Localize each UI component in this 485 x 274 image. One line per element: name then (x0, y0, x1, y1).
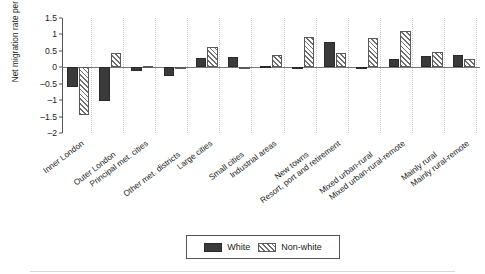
y-tick-label: 0.5 (45, 47, 57, 56)
y-tick-label: 1.5 (45, 14, 57, 23)
y-tick-mark (59, 116, 62, 117)
legend-swatch-white-icon (204, 243, 222, 252)
gridline (187, 18, 189, 133)
bar-group (389, 18, 411, 133)
y-tick-mark (59, 133, 62, 134)
bar-white (292, 67, 303, 69)
gridline (444, 18, 446, 133)
gridline (316, 18, 318, 133)
bar-white (67, 67, 78, 87)
bar-group (67, 18, 89, 133)
gridline (155, 18, 157, 133)
bar-group (453, 18, 475, 133)
bar-group (356, 18, 378, 133)
y-tick-mark (59, 83, 62, 84)
bar-white (228, 57, 239, 67)
y-tick-label: –0.5 (40, 79, 57, 88)
bar-white (131, 67, 142, 70)
x-tick-label: Inner London (42, 140, 85, 176)
bar-group (131, 18, 153, 133)
y-tick-label: –2 (47, 129, 57, 138)
bar-nonwhite (239, 67, 250, 69)
bar-nonwhite (304, 37, 315, 67)
gridline (251, 18, 253, 133)
bar-white (356, 67, 367, 69)
bar-white (99, 67, 110, 101)
bar-white (389, 59, 400, 67)
legend-swatch-non-white-icon (258, 243, 276, 252)
bar-group (99, 18, 121, 133)
legend-label-non-white: Non-white (281, 242, 322, 252)
bar-group (421, 18, 443, 133)
bar-nonwhite (272, 55, 283, 67)
bar-nonwhite (368, 38, 379, 67)
bar-group (260, 18, 282, 133)
bar-white (164, 67, 175, 76)
y-tick-label: 0 (52, 63, 57, 72)
bar-nonwhite (400, 31, 411, 67)
bar-white (324, 42, 335, 67)
footer-rule (30, 271, 455, 272)
gridline (380, 18, 382, 133)
legend-entry-non-white: Non-white (258, 242, 322, 252)
gridline (412, 18, 414, 133)
gridline (284, 18, 286, 133)
bar-nonwhite (79, 67, 90, 115)
bar-nonwhite (207, 47, 218, 68)
bar-nonwhite (111, 53, 122, 68)
migration-rate-bar-chart: Net migration rate per cent 1.510.50–0.5… (0, 0, 485, 274)
y-axis-title: Net migration rate per cent (11, 0, 20, 98)
gridline (476, 18, 478, 133)
bar-group (324, 18, 346, 133)
y-tick-mark (59, 34, 62, 35)
bar-group (292, 18, 314, 133)
y-tick-label: –1.5 (40, 112, 57, 121)
plot-area: 1.510.50–0.5–1–1.5–2 (62, 18, 480, 133)
y-tick-mark (59, 50, 62, 51)
y-tick-mark (59, 67, 62, 68)
y-tick-mark (59, 18, 62, 19)
bar-nonwhite (432, 52, 443, 68)
legend-label-white: White (227, 242, 250, 252)
legend-entry-white: White (204, 242, 250, 252)
bar-nonwhite (143, 66, 154, 68)
gridline (123, 18, 125, 133)
gridline (219, 18, 221, 133)
bar-nonwhite (464, 59, 475, 68)
bar-nonwhite (336, 53, 347, 67)
gridline (91, 18, 93, 133)
bar-white (260, 66, 271, 68)
y-tick-mark (59, 100, 62, 101)
gridline (348, 18, 350, 133)
bar-nonwhite (175, 67, 186, 69)
bar-group (196, 18, 218, 133)
bar-white (453, 55, 464, 67)
bar-group (228, 18, 250, 133)
chart-legend: White Non-white (186, 235, 340, 259)
bar-group (164, 18, 186, 133)
bar-white (196, 58, 207, 68)
bar-white (421, 56, 432, 67)
y-tick-label: 1 (52, 30, 57, 39)
y-tick-label: –1 (47, 96, 57, 105)
